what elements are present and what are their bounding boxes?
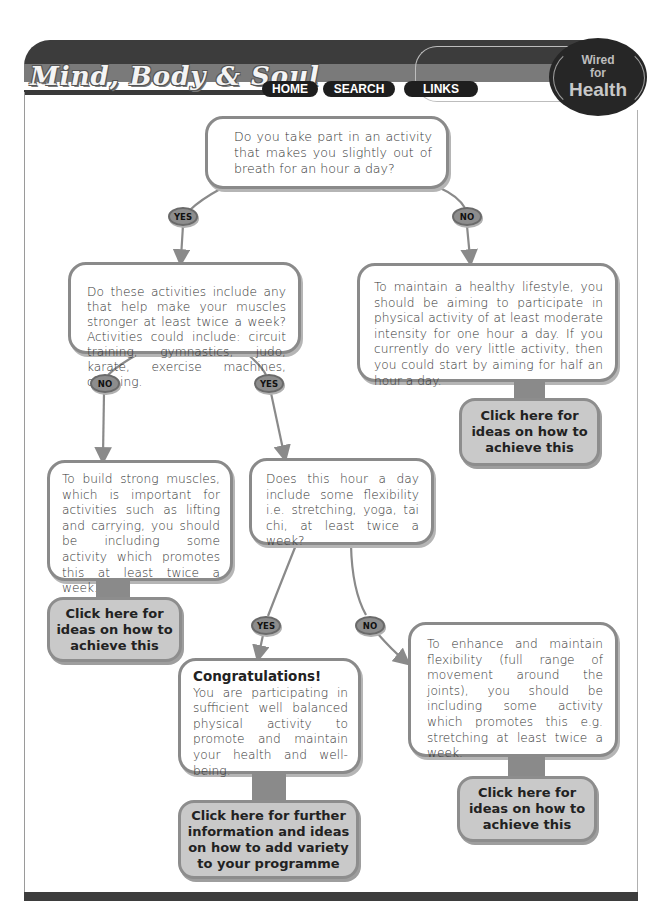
question-text: Do you take part in an activity that mak… [234,129,432,177]
no-badge: NO [452,207,482,226]
yes-badge: YES [251,616,281,635]
congratulations-text: You are participating in sufficient well… [193,686,348,780]
button-stem [252,774,286,802]
advice-box-flexibility: To enhance and maintain flexibility (ful… [408,622,618,757]
yes-badge: YES [168,207,198,226]
question-text: Does this hour a day include some flexib… [266,472,419,550]
activity-ideas-button[interactable]: Click here for ideas on how to achieve t… [459,398,600,466]
question-box-strength: Do these activities include any that hel… [68,262,301,354]
no-badge: NO [355,616,385,635]
advice-text: To maintain a healthy lifestyle, you sho… [374,280,603,389]
advice-box-strength: To build strong muscles, which is import… [47,460,233,581]
no-badge: NO [90,374,120,393]
advice-text: To build strong muscles, which is import… [62,472,220,597]
congratulations-title: Congratulations! [193,669,348,685]
question-text: Do these activities include any that hel… [87,285,286,390]
advice-text: To enhance and maintain flexibility (ful… [427,637,603,762]
strength-ideas-button[interactable]: Click here for ideas on how to achieve t… [47,597,182,662]
button-stem [508,757,545,778]
question-box-activity: Do you take part in an activity that mak… [205,116,449,189]
flexibility-ideas-button[interactable]: Click here for ideas on how to achieve t… [457,776,597,842]
variety-info-button[interactable]: Click here for further information and i… [178,800,359,879]
yes-badge: YES [254,374,284,393]
congratulations-box: Congratulations! You are participating i… [178,658,361,774]
question-box-flexibility: Does this hour a day include some flexib… [249,458,434,545]
advice-box-activity: To maintain a healthy lifestyle, you sho… [357,263,618,382]
